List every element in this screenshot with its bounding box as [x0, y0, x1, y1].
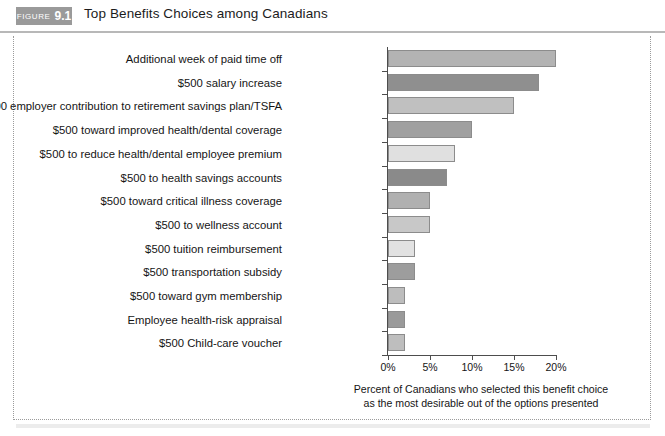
x-axis-tick — [430, 355, 431, 360]
bar-row: $500 salary increase — [0, 71, 665, 95]
bar-category-label: $500 transportation subsidy — [143, 260, 282, 284]
x-axis-tick — [388, 355, 389, 360]
bar — [388, 263, 415, 280]
bar — [388, 145, 455, 162]
bar — [388, 311, 405, 328]
x-axis-tick-label: 5% — [422, 361, 437, 373]
bar-row: Additional week of paid time off — [0, 47, 665, 71]
bar-category-label: $500 to wellness account — [155, 213, 282, 237]
x-axis-tick-label: 20% — [545, 361, 566, 373]
bar-row: $500 toward critical illness coverage — [0, 189, 665, 213]
bar — [388, 216, 430, 233]
bar-chart: Additional week of paid time off$500 sal… — [0, 0, 665, 436]
x-axis-tick-label: 10% — [461, 361, 482, 373]
x-axis-tick — [514, 355, 515, 360]
x-axis-tick — [556, 355, 557, 360]
bar-row: $500 to health savings accounts — [0, 166, 665, 190]
bar — [388, 240, 415, 257]
bar-category-label: $500 tuition reimbursement — [145, 237, 282, 261]
bar-row: $500 toward improved health/dental cover… — [0, 118, 665, 142]
bar-category-label: $500 to reduce health/dental employee pr… — [40, 142, 282, 166]
bar — [388, 121, 472, 138]
x-axis-tick-label: 15% — [503, 361, 524, 373]
bar-category-label: $500 salary increase — [178, 71, 282, 95]
bar-category-label: $500 toward improved health/dental cover… — [53, 118, 282, 142]
bar-row: Employee health-risk appraisal — [0, 308, 665, 332]
bar-row: $500 Child-care voucher — [0, 331, 665, 355]
bar — [388, 50, 556, 67]
bar-category-label: $500 to health savings accounts — [121, 166, 282, 190]
y-axis-tick — [382, 355, 387, 356]
caption-line-1: Percent of Canadians who selected this b… — [336, 383, 626, 397]
bar-category-label: $500 toward critical illness coverage — [101, 189, 282, 213]
chart-caption: Percent of Canadians who selected this b… — [336, 383, 626, 410]
caption-line-2: as the most desirable out of the options… — [336, 397, 626, 411]
bar-row: $500 to wellness account — [0, 213, 665, 237]
bar-category-label: Additional week of paid time off — [126, 47, 282, 71]
bar — [388, 192, 430, 209]
x-axis-tick — [472, 355, 473, 360]
x-axis-tick-label: 0% — [380, 361, 395, 373]
bar-row: $500 transportation subsidy — [0, 260, 665, 284]
bar-category-label: $500 employer contribution to retirement… — [0, 94, 282, 118]
bar — [388, 287, 405, 304]
bar — [388, 334, 405, 351]
bar-category-label: $500 Child-care voucher — [159, 331, 282, 355]
bar-row: $500 tuition reimbursement — [0, 237, 665, 261]
bar — [388, 169, 447, 186]
bar-row: $500 toward gym membership — [0, 284, 665, 308]
bar — [388, 74, 539, 91]
bar-row: $500 employer contribution to retirement… — [0, 94, 665, 118]
bar-row: $500 to reduce health/dental employee pr… — [0, 142, 665, 166]
bar — [388, 97, 514, 114]
bar-category-label: $500 toward gym membership — [130, 284, 282, 308]
bar-category-label: Employee health-risk appraisal — [128, 308, 282, 332]
